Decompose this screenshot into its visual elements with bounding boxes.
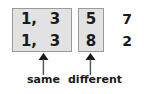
digit-value: 7 bbox=[112, 8, 142, 30]
digit-value: 1, bbox=[16, 30, 42, 52]
digit-value: 2 bbox=[112, 30, 142, 52]
digit-pair: 1, 3 bbox=[13, 8, 71, 30]
remainder-row-bottom: 2 bbox=[112, 30, 142, 52]
remainder-digits-column: 7 2 bbox=[112, 8, 142, 52]
different-label: different bbox=[68, 74, 122, 86]
digit-value: 3 bbox=[42, 30, 68, 52]
digit-value: 1, bbox=[16, 8, 42, 30]
same-digits-row-top: 1, 3 bbox=[13, 8, 71, 30]
up-arrow-icon bbox=[38, 53, 49, 75]
different-digits-box: 5 8 bbox=[78, 8, 104, 52]
digit-value: 8 bbox=[86, 30, 96, 52]
different-digits-row-bottom: 8 bbox=[79, 30, 103, 52]
figure-canvas: 1, 3 1, 3 5 8 7 2 bbox=[0, 0, 148, 94]
digit-value: 5 bbox=[86, 8, 96, 30]
digit-value: 3 bbox=[42, 8, 68, 30]
up-arrow-icon bbox=[85, 53, 96, 75]
different-digits-row-top: 5 bbox=[79, 8, 103, 30]
remainder-row-top: 7 bbox=[112, 8, 142, 30]
same-digits-box: 1, 3 1, 3 bbox=[12, 8, 72, 52]
digit-pair: 1, 3 bbox=[13, 30, 71, 52]
same-label: same bbox=[27, 74, 60, 86]
same-digits-row-bottom: 1, 3 bbox=[13, 30, 71, 52]
